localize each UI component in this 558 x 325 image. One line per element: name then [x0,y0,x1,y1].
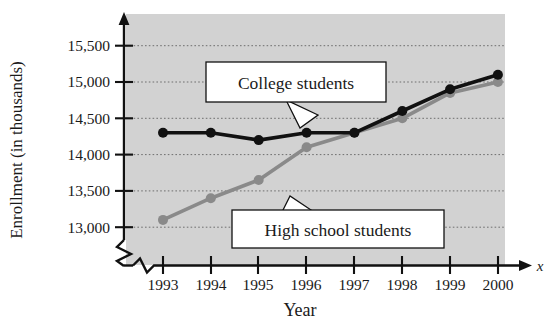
x-tick-label: 1997 [339,276,370,293]
x-tick-label: 1994 [196,276,227,293]
y-tick-label: 15,000 [67,73,110,90]
y-tick-label: 14,000 [67,146,110,163]
data-point [206,128,216,138]
x-tick-label: 1993 [148,276,179,293]
y-tick-labels: 15,500 15,000 14,500 14,000 13,500 13,00… [67,37,110,236]
x-axis-title: Year [283,300,316,320]
y-tick-label: 13,500 [67,182,110,199]
x-tick-label: 2000 [483,276,514,293]
x-tick-label: 1998 [387,276,418,293]
college-callout-label: College students [238,73,354,93]
high-school-callout-label: High school students [265,220,412,240]
x-tick-labels: 1993 1994 1995 1996 1997 1998 1999 2000 [148,276,514,293]
data-point [302,128,312,138]
data-point [493,70,503,80]
data-point [349,128,359,138]
data-point [158,128,168,138]
y-axis-title: Enrollment (in thousands) [7,61,26,239]
x-tick-label: 1996 [291,276,322,293]
data-point [254,175,264,185]
y-tick-label: 14,500 [67,110,110,127]
data-point [302,142,312,152]
data-point [445,84,455,94]
data-point [254,135,264,145]
data-point [158,215,168,225]
x-axis-arrowhead [519,260,532,271]
x-axis-variable-label: x [536,258,544,274]
y-tick-label: 13,000 [67,219,110,236]
x-tick-label: 1995 [243,276,274,293]
chart-figure: 15,500 15,000 14,500 14,000 13,500 13,00… [0,0,558,325]
data-point [206,193,216,203]
data-point [397,106,407,116]
enrollment-line-chart: 15,500 15,000 14,500 14,000 13,500 13,00… [0,0,558,325]
y-tick-label: 15,500 [67,37,110,54]
x-tick-label: 1999 [435,276,466,293]
